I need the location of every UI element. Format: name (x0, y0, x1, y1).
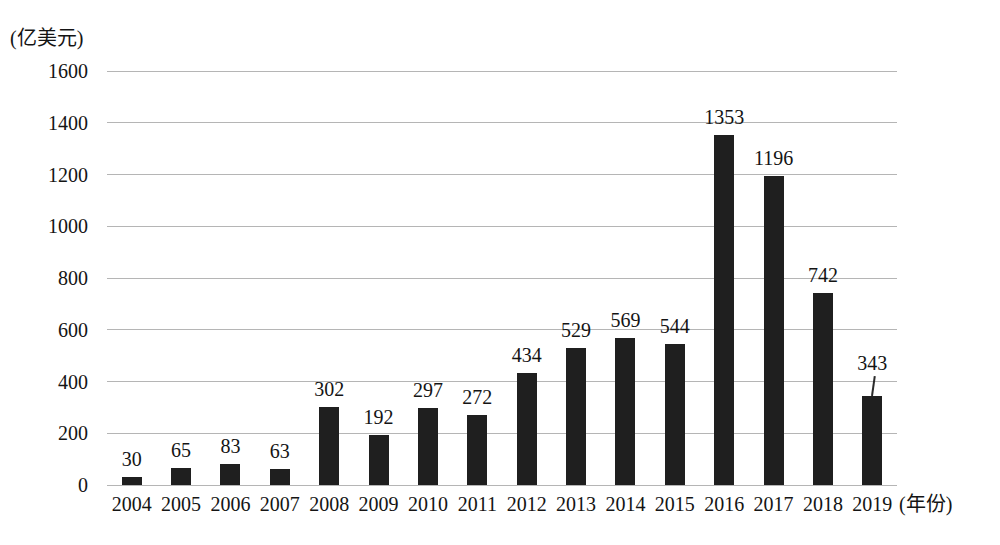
bar-2012 (517, 373, 537, 485)
plot-area: 3065836330219229727243452956954413531196… (107, 71, 897, 485)
y-tick-label: 1400 (0, 113, 88, 133)
bar-value-label: 1353 (684, 108, 764, 126)
chart-figure: (亿美元) 3065836330219229727243452956954413… (0, 0, 1000, 545)
bar-value-label: 302 (289, 380, 369, 398)
bar-2016 (714, 135, 734, 485)
bar-2018 (813, 293, 833, 485)
y-tick-label: 400 (0, 372, 88, 392)
bar-2019 (862, 396, 882, 485)
y-tick-label: 200 (0, 423, 88, 443)
leader-line (871, 376, 876, 396)
y-tick-label: 1600 (0, 61, 88, 81)
bar-value-label: 343 (832, 354, 912, 372)
bar-value-label: 434 (487, 346, 567, 364)
bar-value-label: 1196 (734, 149, 814, 167)
y-axis: 02004006008001000120014001600 (0, 0, 88, 545)
y-tick-label: 0 (0, 475, 88, 495)
bar-2017 (764, 176, 784, 485)
bar-2015 (665, 344, 685, 485)
y-tick-label: 1000 (0, 216, 88, 236)
bar-value-label: 742 (783, 266, 863, 284)
gridline (107, 122, 897, 123)
bar-2008 (319, 407, 339, 485)
bar-value-label: 544 (635, 317, 715, 335)
bar-2011 (467, 415, 487, 485)
bar-2005 (171, 468, 191, 485)
y-tick-label: 800 (0, 268, 88, 288)
bar-2006 (220, 464, 240, 485)
gridline (107, 71, 897, 72)
bar-2007 (270, 469, 290, 485)
bar-2013 (566, 348, 586, 485)
bar-2009 (369, 435, 389, 485)
x-axis: 2004200520062007200820092010201120122013… (0, 493, 1000, 519)
bar-value-label: 272 (437, 388, 517, 406)
bar-value-label: 63 (240, 442, 320, 460)
y-tick-label: 1200 (0, 165, 88, 185)
bar-2010 (418, 408, 438, 485)
y-tick-label: 600 (0, 320, 88, 340)
bar-2004 (122, 477, 142, 485)
x-axis-unit-label: (年份) (899, 493, 952, 515)
bar-2014 (615, 338, 635, 485)
bar-value-label: 192 (339, 408, 419, 426)
